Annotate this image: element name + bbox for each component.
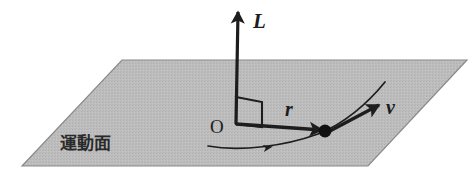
velocity-vector-label: v — [386, 96, 396, 118]
particle-point — [319, 125, 332, 138]
position-vector-label: r — [285, 98, 293, 120]
origin-label: O — [210, 116, 224, 137]
angular-momentum-label: L — [252, 9, 266, 33]
angular-momentum-vector-arrow — [236, 12, 238, 124]
motion-plane-label: 運動面 — [60, 133, 111, 153]
diagram-canvas: 運動面 L r v O — [0, 0, 474, 174]
physics-diagram-figure: 運動面 L r v O — [0, 0, 474, 174]
